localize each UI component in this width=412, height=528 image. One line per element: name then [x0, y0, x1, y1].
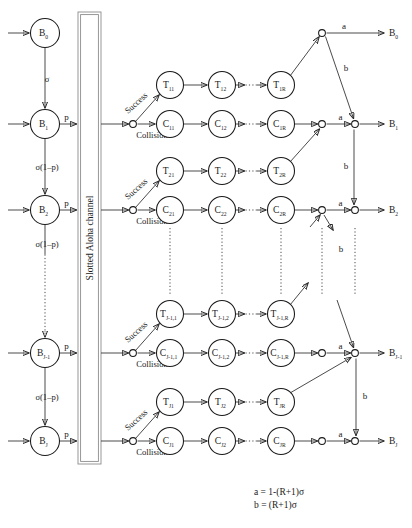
output-node-2: B2 — [389, 205, 398, 217]
success-label-2: Success — [123, 176, 150, 202]
output-node-J: BJ — [389, 436, 398, 448]
merge-dot-1[interactable] — [352, 121, 359, 128]
transition-bj1-bj-label: σ(1–p) — [35, 392, 58, 402]
b-label-1: b — [344, 161, 349, 171]
b-edge-2 — [324, 215, 333, 230]
b-label-0: b — [344, 63, 349, 73]
legend-line-1: b = (R+1)σ — [254, 500, 297, 511]
a-label-3: a — [339, 341, 343, 351]
junction-dot-1[interactable] — [319, 121, 326, 128]
success-label-3: Success — [123, 319, 150, 345]
t-success-edge-4 — [290, 358, 351, 394]
b-label-3: b — [363, 391, 368, 401]
branch-dot-4[interactable] — [130, 438, 137, 445]
merge-dot-4[interactable] — [352, 438, 359, 445]
merge-dot-3[interactable] — [352, 350, 359, 357]
diagram-svg: Slotted Aloha channelB0B1B2BJ-1BJσσ(1–p)… — [0, 0, 412, 528]
t-success-in-2 — [310, 215, 320, 227]
p-label-J: p — [64, 429, 69, 439]
diagram-canvas: Slotted Aloha channelB0B1B2BJ-1BJσσ(1–p)… — [0, 0, 412, 528]
p-label-1: p — [64, 112, 69, 122]
output-node-J-1: BJ-1 — [389, 348, 402, 360]
channel-label: Slotted Aloha channel — [84, 195, 95, 280]
a-label-0: a — [342, 21, 346, 31]
branch-dot-3[interactable] — [130, 350, 137, 357]
legend-line-0: a = 1-(R+1)σ — [254, 487, 304, 498]
transition-b0-b1-label: σ — [45, 74, 50, 84]
t-success-edge-1 — [290, 37, 319, 76]
b-label-2: b — [339, 244, 344, 254]
a-label-1: a — [339, 112, 343, 122]
merge-dot-top[interactable] — [319, 30, 326, 37]
t-success-edge-2 — [290, 129, 320, 162]
a-label-4: a — [339, 429, 343, 439]
a-label-2: a — [339, 198, 343, 208]
generated-layer: Slotted Aloha channelB0B1B2BJ-1BJσσ(1–p)… — [8, 12, 402, 511]
output-node-1: B1 — [389, 119, 398, 131]
transition-b2-label: σ(1–p) — [35, 239, 58, 249]
output-node-0: B0 — [389, 28, 398, 40]
merge-dot-2[interactable] — [352, 207, 359, 214]
p-label-J-1: p — [64, 341, 69, 351]
b-edge-0 — [326, 37, 354, 119]
success-label-1: Success — [123, 90, 150, 116]
branch-dot-1[interactable] — [130, 121, 137, 128]
junction-dot-3[interactable] — [319, 350, 326, 357]
transition-b1-b2-label: σ(1–p) — [35, 162, 58, 172]
branch-dot-2[interactable] — [130, 207, 137, 214]
p-label-2: p — [64, 198, 69, 208]
junction-dot-4[interactable] — [319, 438, 326, 445]
t-success-edge-3 — [290, 283, 308, 305]
success-label-4: Success — [123, 407, 150, 433]
junction-dot-2[interactable] — [319, 207, 326, 214]
